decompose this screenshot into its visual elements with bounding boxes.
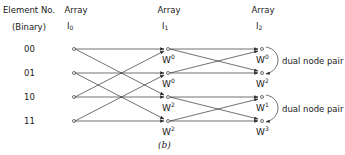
- array1-weight-3: W2: [162, 126, 175, 137]
- array2-weight-2: W1: [256, 102, 269, 113]
- array1-weight-2: W2: [162, 102, 175, 113]
- array2-weight-1: W2: [256, 78, 269, 89]
- dual-node-pair-label-2: dual node pair: [282, 105, 343, 114]
- array1-weight-1: W0: [162, 78, 175, 89]
- array1-weight-0: W0: [162, 54, 175, 65]
- dual-node-pair-label-1: dual node pair: [282, 57, 343, 66]
- array2-weight-0: W0: [256, 54, 269, 65]
- array2-weight-3: W3: [256, 126, 269, 137]
- figure-caption: (b): [158, 140, 171, 150]
